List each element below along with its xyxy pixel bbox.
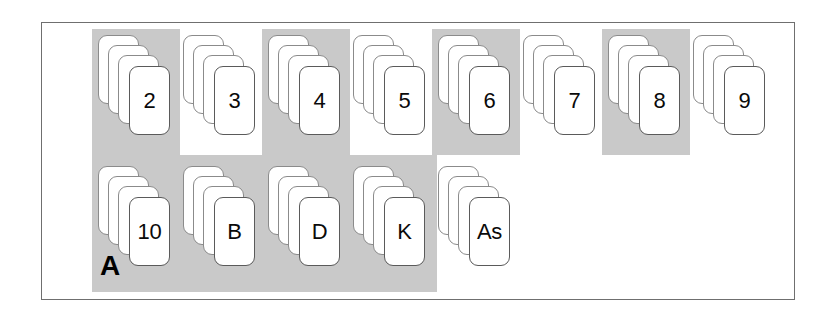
card-front: 10: [129, 197, 170, 266]
card-label: 10: [138, 221, 162, 243]
card-label: D: [312, 221, 328, 243]
card-label: 8: [654, 90, 666, 112]
card-label: 9: [739, 90, 751, 112]
card-front: As: [469, 197, 510, 266]
card-label: 2: [144, 90, 156, 112]
card-front: B: [214, 197, 255, 266]
card-stack-6[interactable]: 6: [438, 35, 512, 135]
card-stack-9[interactable]: 9: [693, 35, 767, 135]
card-label: 6: [484, 90, 496, 112]
card-label: 4: [314, 90, 326, 112]
card-label: 5: [399, 90, 411, 112]
card-stack-as[interactable]: As: [438, 166, 512, 266]
card-label: 7: [569, 90, 581, 112]
card-front: 6: [469, 66, 510, 135]
card-label: K: [397, 221, 411, 243]
card-front: 4: [299, 66, 340, 135]
card-stack-8[interactable]: 8: [608, 35, 682, 135]
card-front: 5: [384, 66, 425, 135]
card-stack-3[interactable]: 3: [183, 35, 257, 135]
card-stack-4[interactable]: 4: [268, 35, 342, 135]
card-front: 8: [639, 66, 680, 135]
card-stack-b[interactable]: B: [183, 166, 257, 266]
card-stack-d[interactable]: D: [268, 166, 342, 266]
card-front: 3: [214, 66, 255, 135]
figure-canvas: A2345678910BDKAs: [0, 0, 838, 320]
card-label: As: [477, 221, 502, 243]
card-label: 3: [229, 90, 241, 112]
card-front: 7: [554, 66, 595, 135]
card-stack-7[interactable]: 7: [523, 35, 597, 135]
card-front: K: [384, 197, 425, 266]
card-stack-2[interactable]: 2: [98, 35, 172, 135]
card-stack-k[interactable]: K: [353, 166, 427, 266]
card-label: B: [227, 221, 241, 243]
card-front: 9: [724, 66, 765, 135]
card-stack-5[interactable]: 5: [353, 35, 427, 135]
card-front: 2: [129, 66, 170, 135]
card-stack-10[interactable]: 10: [98, 166, 172, 266]
card-front: D: [299, 197, 340, 266]
